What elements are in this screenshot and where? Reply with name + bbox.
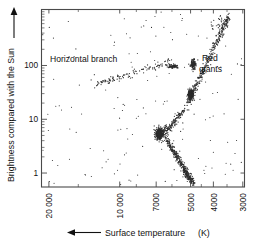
y-axis-title: Brightness compared with the Sun [6, 48, 16, 182]
x-tick-label-1: 10 000 [115, 193, 125, 219]
x-axis-title: Surface temperature [105, 228, 185, 238]
hr-diagram-svg: 20 00010 0007000500040003000 110100 Hori… [0, 0, 255, 243]
annotation-horizontal-branch: Horizontal branch [50, 54, 118, 64]
y-axis-title-group: Brightness compared with the Sun [6, 7, 17, 182]
y-tick-label-1: 10 [29, 114, 39, 124]
x-axis-unit: (K) [198, 228, 210, 238]
y-axis-ticks [42, 12, 245, 173]
hr-diagram-figure: 20 00010 0007000500040003000 110100 Hori… [0, 0, 255, 243]
y-axis-arrow-head [11, 7, 18, 15]
horizontal-branch-label: Horizontal branch [50, 54, 118, 64]
annotation-red-giants: Red giants [199, 53, 222, 74]
x-axis-ticks [49, 10, 243, 188]
x-axis-arrow-head [67, 229, 75, 236]
x-tick-label-5: 3000 [238, 193, 248, 212]
x-tick-label-3: 5000 [186, 193, 196, 212]
x-tick-label-0: 20 000 [44, 193, 54, 219]
plot-frame [42, 10, 245, 188]
y-axis-tick-labels: 110100 [24, 60, 38, 178]
scatter-data-layer [42, 12, 242, 187]
x-axis-tick-labels: 20 00010 0007000500040003000 [44, 193, 248, 219]
y-tick-label-0: 1 [33, 168, 38, 178]
x-tick-label-4: 4000 [209, 193, 219, 212]
red-giants-label-line1: Red [202, 53, 218, 63]
red-giants-label-line2: giants [199, 64, 222, 74]
y-tick-label-2: 100 [24, 60, 38, 70]
x-axis-title-group: Surface temperature (K) [67, 228, 210, 238]
x-tick-label-2: 7000 [151, 193, 161, 212]
